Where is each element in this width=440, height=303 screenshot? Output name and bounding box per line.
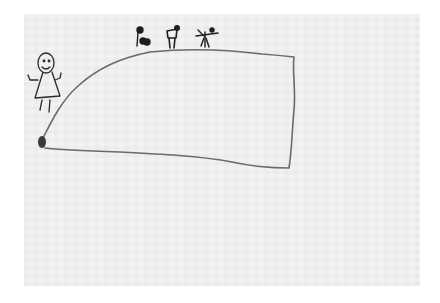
hill-outline: [42, 50, 295, 168]
child-drawing: [0, 0, 440, 303]
figure-middle: [167, 26, 179, 48]
figure-left: [137, 27, 150, 46]
figure-right: [196, 28, 218, 47]
girl-figure: [28, 53, 61, 112]
rock-blob: [38, 136, 46, 148]
